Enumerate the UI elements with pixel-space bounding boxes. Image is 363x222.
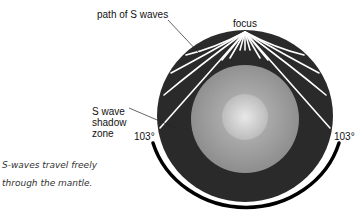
shadow-label-line3: zone bbox=[92, 128, 126, 139]
caption: S-waves travel freely through the mantle… bbox=[2, 156, 97, 192]
angle-left-label: 103° bbox=[134, 131, 155, 142]
caption-line2: through the mantle. bbox=[2, 174, 97, 192]
path-of-s-waves-label: path of S waves bbox=[97, 9, 168, 20]
shadow-label-line2: shadow bbox=[92, 117, 126, 128]
inner-core bbox=[222, 94, 268, 140]
focus-label: focus bbox=[233, 18, 257, 29]
angle-right-label: 103° bbox=[334, 131, 355, 142]
shadow-label-line1: S wave bbox=[92, 106, 126, 117]
caption-line1: S-waves travel freely bbox=[2, 156, 97, 174]
shadow-zone-label: S wave shadow zone bbox=[92, 106, 126, 139]
path-pointer-line bbox=[168, 20, 200, 54]
